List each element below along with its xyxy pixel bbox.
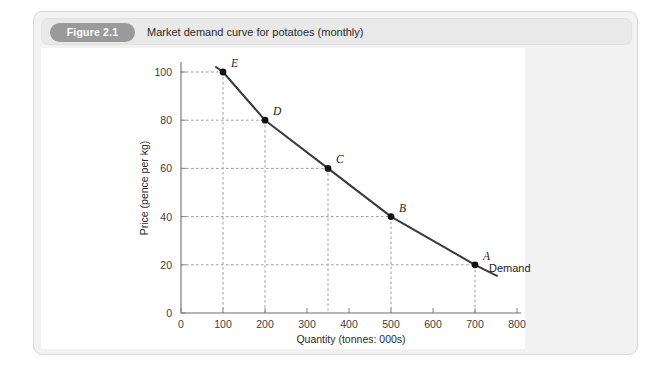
- figure-title: Market demand curve for potatoes (monthl…: [147, 19, 363, 46]
- plot-background-panel: [41, 48, 525, 349]
- figure-card: Figure 2.1 Market demand curve for potat…: [33, 11, 638, 355]
- figure-number-badge: Figure 2.1: [50, 23, 135, 42]
- figure-header-bar: Figure 2.1 Market demand curve for potat…: [41, 18, 632, 45]
